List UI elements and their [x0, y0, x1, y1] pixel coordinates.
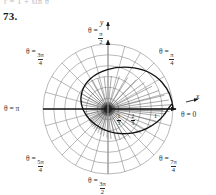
tick-two-thirds-label: 23 [131, 113, 135, 126]
theta-7pi-over-4-prefix: θ = [159, 154, 169, 163]
theta-3pi-over-2-label: θ =3π2 [88, 177, 107, 195]
tick-one-third-label: 13 [117, 113, 121, 126]
theta-pi-over-4-label: θ =π4 [159, 48, 175, 66]
theta-7pi-over-4-label: θ =7π4 [159, 155, 178, 173]
y-axis-label: y [100, 19, 103, 27]
theta-3pi-over-2-prefix: θ = [88, 176, 98, 185]
theta-pi-label: θ = π [4, 105, 19, 113]
polar-curve [81, 67, 173, 134]
theta-pi-over-2-prefix: θ = [88, 26, 98, 35]
theta-zero-label: θ = 0 [181, 111, 196, 119]
tick-one-label: 1 [154, 113, 157, 119]
theta-pi-over-2-label: θ =π2 [88, 27, 104, 45]
x-axis-label: x [196, 93, 199, 101]
theta-5pi-over-4-label: θ =5π4 [26, 155, 45, 173]
figure-page: r = 1 + sin θ 73. [0, 0, 216, 195]
theta-pi-over-4-prefix: θ = [159, 47, 169, 56]
theta-5pi-over-4-prefix: θ = [26, 154, 36, 163]
theta-3pi-over-4-label: θ =3π4 [26, 48, 45, 66]
theta-3pi-over-4-prefix: θ = [26, 47, 36, 56]
